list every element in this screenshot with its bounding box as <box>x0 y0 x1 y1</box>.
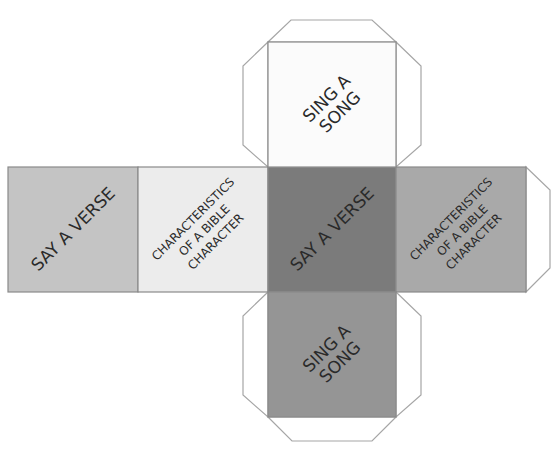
bottom-right-tab <box>396 292 421 417</box>
top-tab <box>268 20 396 42</box>
cube-net-diagram: SAY A VERSE CHARACTERISTICS OF A BIBLE C… <box>0 0 557 453</box>
top-left-tab <box>243 42 268 167</box>
right-tab <box>526 167 550 292</box>
top-right-tab <box>396 42 421 167</box>
bottom-tab <box>268 417 396 441</box>
bottom-left-tab <box>243 292 268 417</box>
